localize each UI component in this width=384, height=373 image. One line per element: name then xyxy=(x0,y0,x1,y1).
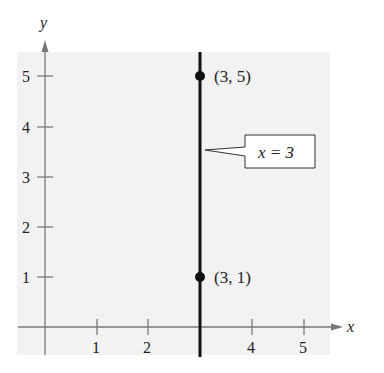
chart: y x 1 2 3 4 5 1 2 4 5 (3, 5) (3, 1) x = … xyxy=(0,0,384,373)
callout-label: x = 3 xyxy=(257,143,294,162)
x-tick-1: 1 xyxy=(92,339,100,356)
x-axis-arrow-icon xyxy=(331,324,343,331)
x-axis-label: x xyxy=(346,318,354,335)
x-tick-5: 5 xyxy=(299,339,307,356)
y-tick-1: 1 xyxy=(22,269,30,286)
y-tick-3: 3 xyxy=(22,169,30,186)
y-axis-arrow-icon xyxy=(42,40,49,52)
point-label-3-1: (3, 1) xyxy=(214,268,251,287)
x-tick-4: 4 xyxy=(247,339,255,356)
x-tick-2: 2 xyxy=(143,339,151,356)
y-axis-label: y xyxy=(38,14,48,32)
plot-background xyxy=(17,52,330,355)
point-3-5 xyxy=(195,71,205,81)
y-tick-2: 2 xyxy=(22,219,30,236)
point-label-3-5: (3, 5) xyxy=(214,67,251,86)
y-tick-4: 4 xyxy=(22,119,30,136)
point-3-1 xyxy=(195,272,205,282)
y-tick-5: 5 xyxy=(22,68,30,85)
